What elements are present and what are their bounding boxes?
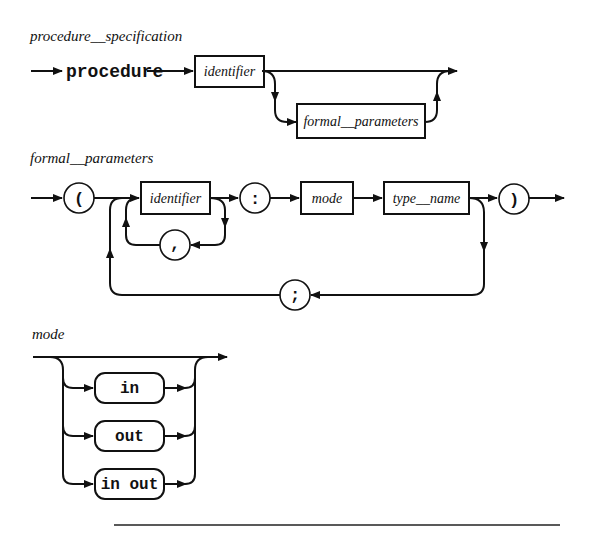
branch-out-entry (63, 426, 93, 436)
up-arrowhead (106, 248, 114, 258)
left-rail (50, 357, 73, 484)
formal-parameters-label: formal__parameters (303, 114, 419, 129)
mode-option-in-out-label: in out (101, 476, 159, 494)
colon-label: : (250, 190, 260, 209)
branch-down (262, 71, 296, 122)
identifier-label: identifier (150, 191, 202, 206)
semicolon-label: ; (290, 286, 300, 305)
left-arrowhead (310, 291, 320, 299)
open-paren-label: ( (74, 190, 84, 209)
mode-label: mode (312, 191, 342, 206)
close-paren-label: ) (509, 191, 519, 210)
left-arrowhead (190, 241, 200, 249)
type-name-label: type__name (393, 191, 461, 206)
down-arrowhead (480, 242, 488, 252)
comma-label: , (170, 235, 180, 254)
procedure-specification-title: procedure__specification (29, 28, 182, 44)
right-arrowhead (287, 118, 297, 126)
branch-in-entry (63, 378, 93, 388)
down-arrowhead (271, 92, 279, 102)
mode-option-out-label: out (115, 428, 144, 446)
up-arrowhead (122, 217, 130, 227)
arrowhead (177, 384, 187, 392)
arrowhead (177, 480, 187, 488)
procedure-specification-diagram: procedure__specification procedure ident… (29, 28, 457, 138)
mode-diagram: mode in out in out (32, 326, 227, 499)
arrowhead (177, 432, 187, 440)
syntax-diagrams: procedure__specification procedure ident… (0, 0, 593, 534)
formal-parameters-diagram: formal__parameters ( identifier , : mode… (30, 150, 564, 310)
mode-title: mode (32, 326, 65, 342)
mode-option-in-label: in (120, 380, 139, 398)
right-rail (185, 357, 208, 484)
down-arrowhead (221, 218, 229, 228)
up-arrowhead (433, 91, 441, 101)
formal-parameters-title: formal__parameters (30, 150, 153, 166)
identifier-label: identifier (204, 64, 256, 79)
